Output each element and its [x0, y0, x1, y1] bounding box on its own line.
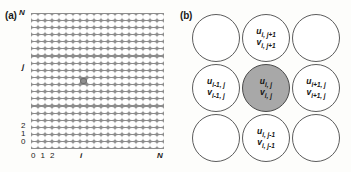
lattice-node — [80, 21, 86, 27]
lattice-node — [45, 42, 51, 48]
lattice-node — [143, 135, 149, 141]
lattice-node — [73, 71, 79, 77]
lattice-node — [108, 107, 114, 113]
lattice-node — [122, 14, 128, 20]
lattice-node — [59, 78, 65, 84]
lattice-node — [143, 78, 149, 84]
lattice-node — [59, 64, 65, 70]
lattice-node — [31, 92, 37, 98]
lattice-node — [45, 78, 51, 84]
lattice-node — [150, 92, 156, 98]
lattice-node — [66, 71, 72, 77]
lattice-node — [31, 85, 37, 91]
lattice-node — [52, 121, 58, 127]
lattice-node — [143, 21, 149, 27]
lattice-node — [108, 128, 114, 134]
lattice-node — [115, 85, 121, 91]
lattice-node — [52, 28, 58, 34]
stencil-node-center-highlighted: ui, j vi, j — [242, 64, 290, 112]
lattice-node — [94, 92, 100, 98]
lattice-node — [122, 64, 128, 70]
lattice-node — [157, 42, 163, 48]
lattice-node — [115, 114, 121, 120]
lattice-node — [150, 142, 156, 148]
lattice-node — [52, 85, 58, 91]
lattice-node — [66, 107, 72, 113]
lattice-node — [122, 21, 128, 27]
lattice-node — [59, 71, 65, 77]
lattice-node — [150, 107, 156, 113]
lattice-node — [45, 142, 51, 148]
lattice-node — [150, 71, 156, 77]
lattice-node — [94, 128, 100, 134]
lattice-node — [87, 99, 93, 105]
lattice-node — [59, 28, 65, 34]
lattice-node — [129, 121, 135, 127]
lattice-node — [87, 142, 93, 148]
lattice-node — [122, 142, 128, 148]
lattice-node — [31, 121, 37, 127]
lattice-node — [66, 78, 72, 84]
lattice-node — [122, 35, 128, 41]
lattice-node — [66, 128, 72, 134]
node-v-label: vi, j-1 — [257, 138, 275, 149]
lattice-node — [150, 99, 156, 105]
lattice-node — [73, 14, 79, 20]
lattice-node — [129, 128, 135, 134]
lattice-node — [31, 57, 37, 63]
lattice-node — [87, 49, 93, 55]
lattice-node — [136, 114, 142, 120]
lattice-node — [108, 78, 114, 84]
lattice-node — [52, 42, 58, 48]
lattice-node — [66, 35, 72, 41]
lattice-node — [73, 121, 79, 127]
lattice-node — [150, 135, 156, 141]
lattice-node — [94, 142, 100, 148]
lattice-node — [31, 107, 37, 113]
lattice-node — [38, 21, 44, 27]
lattice-node — [80, 107, 86, 113]
lattice-node — [108, 142, 114, 148]
lattice-node — [66, 21, 72, 27]
lattice-node — [80, 49, 86, 55]
lattice-node — [94, 28, 100, 34]
lattice-node — [73, 57, 79, 63]
lattice-node — [101, 121, 107, 127]
lattice-node — [115, 71, 121, 77]
lattice-node — [73, 128, 79, 134]
lattice-node — [129, 107, 135, 113]
lattice-node — [45, 14, 51, 20]
lattice-node — [87, 14, 93, 20]
lattice-node — [66, 28, 72, 34]
lattice-node — [143, 64, 149, 70]
lattice-node — [52, 49, 58, 55]
lattice-node — [80, 135, 86, 141]
lattice-node — [136, 42, 142, 48]
lattice-node — [143, 142, 149, 148]
figure-container: (a) N j 2 1 0 0 1 2 i N (b) ui, j+1 vi, … — [0, 0, 351, 172]
lattice-node — [157, 135, 163, 141]
lattice-node — [45, 21, 51, 27]
lattice-node — [129, 78, 135, 84]
y-axis-tick-index: j — [22, 63, 24, 71]
lattice-node — [143, 114, 149, 120]
lattice-node — [101, 42, 107, 48]
lattice-node — [31, 99, 37, 105]
lattice-node — [80, 99, 86, 105]
lattice-node — [150, 57, 156, 63]
lattice-node — [66, 14, 72, 20]
lattice-node — [129, 49, 135, 55]
lattice-node — [101, 49, 107, 55]
lattice-node — [66, 42, 72, 48]
lattice-node — [73, 114, 79, 120]
lattice-node — [59, 114, 65, 120]
lattice-node — [129, 92, 135, 98]
lattice-node — [45, 35, 51, 41]
lattice-node — [143, 85, 149, 91]
lattice-node — [52, 14, 58, 20]
lattice-node — [122, 92, 128, 98]
lattice-node — [157, 28, 163, 34]
lattice-node — [157, 142, 163, 148]
lattice-node — [66, 114, 72, 120]
panel-a-label: (a) — [5, 10, 17, 21]
